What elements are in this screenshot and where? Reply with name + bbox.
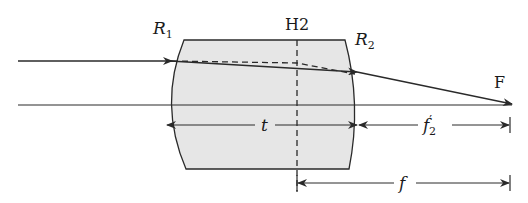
exit-ray: [357, 72, 512, 104]
label-focal-point: F: [494, 73, 505, 92]
thick-lens-diagram: R1 H2 R2 F t f′2 f: [0, 0, 528, 203]
label-thickness: t: [261, 115, 268, 135]
label-focal-length: f: [397, 173, 408, 193]
label-r1: R1: [152, 18, 173, 41]
label-h2: H2: [285, 15, 309, 34]
label-r2: R2: [354, 29, 375, 52]
label-back-focal-distance: f′2: [421, 114, 436, 138]
